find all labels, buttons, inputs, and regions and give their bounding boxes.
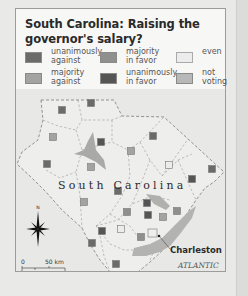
- map-figure: South Carolina: Raising the governor's s…: [15, 8, 226, 272]
- county-vote-square-unanimously-in-favor: [98, 139, 105, 146]
- county-vote-square-unanimously-in-favor: [144, 200, 151, 207]
- county-vote-square-unanimously-against: [88, 100, 95, 107]
- swatch-majority-in-favor: [100, 52, 117, 63]
- swatch-even: [176, 52, 193, 63]
- legend-label: majority against: [51, 69, 84, 86]
- county-vote-square-majority-against: [160, 214, 167, 221]
- legend-label: not voting: [202, 69, 227, 86]
- county-vote-square-even: [118, 226, 125, 233]
- ocean-label-line1: ATLANTIC: [177, 261, 219, 270]
- county-vote-square-majority-in-favor: [124, 209, 131, 216]
- county-vote-square-majority-in-favor: [138, 234, 145, 241]
- county-vote-square-even: [166, 162, 173, 169]
- county-vote-square-unanimously-in-favor: [99, 228, 106, 235]
- compass-north-label: N: [36, 205, 39, 210]
- county-vote-square-unanimously-in-favor: [189, 176, 196, 183]
- county-vote-square-majority-against: [128, 148, 135, 155]
- county-vote-square-unanimously-against: [150, 133, 157, 140]
- state-label: South Carolina: [58, 179, 187, 192]
- county-vote-square-majority-against: [88, 164, 95, 171]
- map-area: South Carolina Charleston ATLANTIC OCEAN…: [16, 89, 225, 271]
- county-vote-square-unanimously-against: [209, 166, 216, 173]
- county-vote-square-unanimously-against: [113, 261, 120, 268]
- county-vote-square-majority-against: [81, 199, 88, 206]
- state-map: South Carolina Charleston ATLANTIC OCEAN…: [16, 89, 225, 271]
- legend-label: unanimously in favor: [126, 69, 177, 86]
- county-vote-square-unanimously-against: [44, 161, 51, 168]
- legend-label: majority in favor: [126, 48, 159, 65]
- compass-rose-icon: N: [26, 205, 50, 247]
- swatch-unanimously-against: [25, 52, 42, 63]
- county-vote-square-majority-against: [50, 134, 57, 141]
- scale-bar: 0 50 km 0 50 miles: [21, 258, 89, 271]
- county-vote-square-unanimously-in-favor: [145, 212, 152, 219]
- svg-text:0: 0: [21, 258, 25, 265]
- county-vote-square-unanimously-against: [89, 240, 96, 247]
- swatch-unanimously-in-favor: [100, 73, 117, 84]
- charleston-marker: [158, 235, 161, 238]
- legend-label: unanimously against: [51, 48, 102, 65]
- county-vote-square-unanimously-against: [59, 107, 66, 114]
- page-edge: [236, 0, 248, 296]
- swatch-majority-against: [25, 73, 42, 84]
- figure-title: South Carolina: Raising the governor's s…: [25, 17, 221, 47]
- county-vote-square-majority-in-favor: [174, 208, 181, 215]
- swatch-not-voting: [176, 73, 193, 84]
- legend-label: even: [202, 48, 222, 57]
- city-label-charleston: Charleston: [170, 245, 222, 255]
- svg-text:50 km: 50 km: [45, 258, 64, 265]
- legend-panel: South Carolina: Raising the governor's s…: [16, 9, 225, 90]
